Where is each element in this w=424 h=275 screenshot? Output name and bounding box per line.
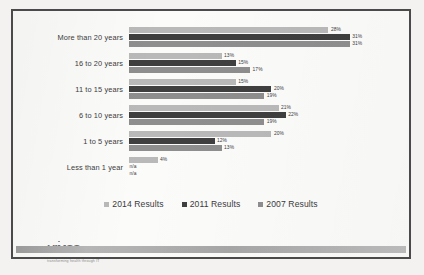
bar-value-label: 31% [350, 34, 362, 40]
category-label: 6 to 10 years [21, 103, 123, 129]
legend-label: 2007 Results [266, 199, 317, 209]
bar-line: 21% [129, 105, 405, 111]
legend-item[interactable]: 2007 Results [258, 199, 317, 209]
bar-line: 20% [129, 131, 405, 137]
slide-frame: More than 20 years28%31%31%16 to 20 year… [11, 9, 411, 259]
legend-label: 2014 Results [112, 199, 163, 209]
bar-segment[interactable] [129, 131, 271, 137]
bar-line: 19% [129, 93, 405, 99]
bar-value-label: 31% [350, 41, 362, 47]
category-bar-group: 28%31%31% [129, 27, 405, 49]
bar-value-label: 21% [279, 105, 291, 111]
bar-value-label: 12% [215, 138, 227, 144]
bar-value-label: 22% [286, 112, 298, 118]
bar-line: 4% [129, 157, 405, 163]
bar-value-label: 19% [264, 119, 276, 125]
bar-segment[interactable] [129, 93, 264, 99]
category-label: Less than 1 year [21, 155, 123, 181]
legend-label: 2011 Results [190, 199, 241, 209]
category-bar-group: 4%n/an/a [129, 157, 405, 179]
chart-category-row: Less than 1 year4%n/an/a [21, 155, 405, 181]
bar-segment[interactable] [129, 157, 158, 163]
legend-item[interactable]: 2014 Results [104, 199, 163, 209]
bar-segment[interactable] [129, 112, 286, 118]
bar-value-label: 15% [236, 79, 248, 85]
bar-line: 13% [129, 53, 405, 59]
bar-value-label: n/a [129, 164, 136, 170]
chart-category-row: 6 to 10 years21%22%19% [21, 103, 405, 129]
bar-segment[interactable] [129, 138, 215, 144]
bar-line: 28% [129, 27, 405, 33]
bar-value-label: 17% [250, 67, 262, 73]
legend-swatch-icon [104, 202, 109, 207]
bar-segment[interactable] [129, 119, 264, 125]
chart-category-row: 11 to 15 years15%20%19% [21, 77, 405, 103]
category-label: More than 20 years [21, 25, 123, 51]
category-label: 1 to 5 years [21, 129, 123, 155]
bar-line: 12% [129, 138, 405, 144]
chart-category-row: 16 to 20 years13%15%17% [21, 51, 405, 77]
bar-line: 22% [129, 112, 405, 118]
bar-segment[interactable] [129, 34, 350, 40]
bar-line: 19% [129, 119, 405, 125]
himss-tagline: transforming health through IT [47, 259, 167, 263]
bar-value-label: 15% [236, 60, 248, 66]
chart-legend: 2014 Results2011 Results2007 Results [13, 193, 409, 211]
bar-segment[interactable] [129, 60, 236, 66]
bar-segment[interactable] [129, 86, 271, 92]
bar-line: 15% [129, 79, 405, 85]
bar-line: 20% [129, 86, 405, 92]
bar-line: n/a [129, 171, 405, 177]
bar-segment[interactable] [129, 27, 328, 33]
category-label: 11 to 15 years [21, 77, 123, 103]
category-label: 16 to 20 years [21, 51, 123, 77]
bar-segment[interactable] [129, 41, 350, 47]
bar-line: 15% [129, 60, 405, 66]
category-bar-group: 21%22%19% [129, 105, 405, 127]
bar-value-label: 13% [222, 145, 234, 151]
category-bar-group: 15%20%19% [129, 79, 405, 101]
bar-line: 31% [129, 34, 405, 40]
category-bar-group: 13%15%17% [129, 53, 405, 75]
bar-line: n/a [129, 164, 405, 170]
bar-segment[interactable] [129, 53, 222, 59]
bar-segment[interactable] [129, 105, 279, 111]
legend-swatch-icon [182, 202, 187, 207]
bar-value-label: 13% [222, 53, 234, 59]
scanned-page-background: More than 20 years28%31%31%16 to 20 year… [0, 0, 424, 275]
bar-value-label: n/a [129, 171, 136, 177]
bar-line: 31% [129, 41, 405, 47]
bar-value-label: 4% [158, 157, 168, 163]
bar-segment[interactable] [129, 79, 236, 85]
bar-line: 17% [129, 67, 405, 73]
bar-chart: More than 20 years28%31%31%16 to 20 year… [21, 25, 405, 185]
registered-dot-icon [58, 241, 60, 243]
chart-category-row: More than 20 years28%31%31% [21, 25, 405, 51]
bar-segment[interactable] [129, 145, 222, 151]
bar-value-label: 19% [264, 93, 276, 99]
bar-segment[interactable] [129, 67, 250, 73]
chart-category-row: 1 to 5 years20%12%13% [21, 129, 405, 155]
bar-value-label: 20% [271, 131, 283, 137]
legend-swatch-icon [258, 202, 263, 207]
bar-value-label: 20% [271, 86, 283, 92]
bar-line: 13% [129, 145, 405, 151]
category-bar-group: 20%12%13% [129, 131, 405, 153]
legend-item[interactable]: 2011 Results [182, 199, 241, 209]
bar-value-label: 28% [328, 27, 340, 33]
slide-footer-stripe [16, 246, 406, 253]
